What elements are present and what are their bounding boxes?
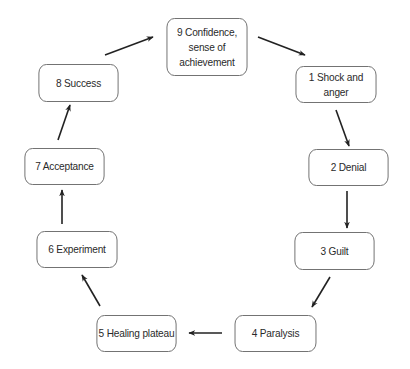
arrow-n8-to-n9 (105, 37, 153, 55)
stage-7-acceptance: 7 Acceptance (24, 148, 104, 185)
node-label: 9 Confidence, sense of achievement (177, 25, 237, 70)
stage-2-denial: 2 Denial (308, 149, 388, 186)
node-label: 6 Experiment (48, 242, 106, 257)
node-label: 5 Healing plateau (99, 326, 175, 341)
arrow-n9-to-n1 (258, 37, 305, 55)
arrow-n7-to-n8 (58, 105, 70, 140)
stage-8-success: 8 Success (38, 64, 118, 102)
stage-6-experiment: 6 Experiment (37, 231, 118, 268)
stage-3-guilt: 3 Guilt (294, 232, 374, 270)
node-label: 4 Paralysis (252, 326, 300, 341)
stage-9-confidence: 9 Confidence, sense of achievement (167, 18, 248, 76)
cycle-diagram: 1 Shock and anger 2 Denial 3 Guilt 4 Par… (0, 0, 410, 369)
stage-5-healing-plateau: 5 Healing plateau (96, 315, 176, 352)
arrow-n1-to-n2 (336, 110, 349, 146)
arrow-n5-to-n6 (82, 275, 100, 306)
node-label: 8 Success (56, 76, 101, 91)
node-label: 2 Denial (331, 160, 367, 175)
arrow-n3-to-n4 (312, 277, 330, 307)
node-label: 1 Shock and anger (296, 70, 375, 100)
node-label: 3 Guilt (320, 244, 348, 259)
stage-4-paralysis: 4 Paralysis (235, 315, 317, 352)
stage-1-shock-and-anger: 1 Shock and anger (296, 66, 377, 103)
node-label: 7 Acceptance (35, 159, 94, 174)
